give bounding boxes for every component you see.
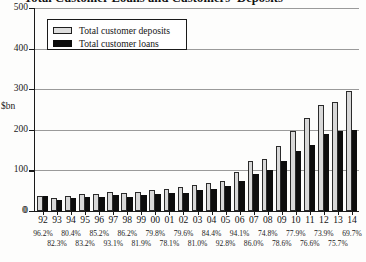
bar-loans: [324, 134, 330, 211]
ratio-label: 80.4%: [57, 229, 85, 238]
bar-loans: [57, 200, 63, 211]
bar-group: [205, 8, 219, 211]
bar-group: [190, 8, 204, 211]
ratio-label: 83.2%: [71, 239, 99, 248]
ratio-label: 79.6%: [169, 229, 197, 238]
ratio-label: 81.9%: [127, 239, 155, 248]
bar-group: [219, 8, 233, 211]
legend-swatch-loans-icon: [53, 40, 72, 47]
bar-loans: [113, 195, 119, 211]
y-axis-tick: [29, 170, 35, 171]
ratio-label: 75.7%: [324, 239, 352, 248]
ratio-label: 86.0%: [240, 239, 268, 248]
y-axis-tick: [29, 49, 35, 50]
legend-item-loans: Total customer loans: [53, 37, 181, 49]
ratio-label: 86.2%: [113, 229, 141, 238]
chart-legend: Total customer deposits Total customer l…: [47, 19, 187, 50]
ratio-label: 78.6%: [268, 239, 296, 248]
legend-swatch-deposits-icon: [53, 27, 72, 34]
ratio-label: 69.7%: [338, 229, 366, 238]
ratio-labels: 96.2%82.3%80.4%83.2%85.2%93.1%86.2%81.9%…: [36, 229, 359, 251]
ratio-label: 85.2%: [85, 229, 113, 238]
bar-group: [289, 8, 303, 211]
bar-loans: [127, 197, 133, 211]
ratio-label: 84.4%: [198, 229, 226, 238]
bar-loans: [352, 130, 358, 211]
bar-loans: [71, 198, 77, 211]
bar-group: [345, 8, 359, 211]
bar-group: [275, 8, 289, 211]
y-axis-tick: [29, 89, 35, 90]
bar-group: [303, 8, 317, 211]
y-axis-tick: [29, 8, 35, 9]
bar-loans: [183, 193, 189, 211]
ratio-label: 73.9%: [310, 229, 338, 238]
bar-loans: [239, 181, 245, 211]
bar-loans: [43, 196, 49, 211]
chart-title: Total Customer Loans and Customers' Depo…: [24, 0, 361, 5]
ratio-label: 93.1%: [99, 239, 127, 248]
x-axis-label: 14: [343, 214, 361, 225]
ratio-label: 78.1%: [155, 239, 183, 248]
bar-group: [261, 8, 275, 211]
bar-loans: [197, 190, 203, 211]
bar-loans: [141, 195, 147, 211]
bar-group: [247, 8, 261, 211]
x-axis-labels: 9293949596979899000102030405060708091011…: [36, 214, 359, 227]
bar-loans: [99, 197, 105, 211]
bar-loans: [267, 170, 273, 211]
legend-item-deposits: Total customer deposits: [53, 24, 181, 36]
y-axis-tick-label: 200: [2, 124, 28, 134]
bar-loans: [338, 131, 344, 211]
y-axis-tick-label: 300: [2, 83, 28, 93]
y-axis-tick-label: 500: [2, 2, 28, 12]
ratio-label: 76.6%: [296, 239, 324, 248]
bar-loans: [211, 189, 217, 211]
bar-loans: [155, 194, 161, 211]
ratio-label: 94.1%: [226, 229, 254, 238]
bar-loans: [169, 193, 175, 211]
legend-label-deposits: Total customer deposits: [79, 25, 170, 36]
y-axis-tick-label: 100: [2, 164, 28, 174]
ratio-label: 79.8%: [141, 229, 169, 238]
ratio-label: 74.8%: [254, 229, 282, 238]
bar-loans: [310, 145, 316, 211]
y-axis-zero-label: 0: [22, 205, 27, 215]
ratio-label: 77.9%: [282, 229, 310, 238]
y-axis-tick-label: 400: [2, 43, 28, 53]
bar-loans: [253, 174, 259, 211]
ratio-label: 82.3%: [43, 239, 71, 248]
bar-loans: [296, 151, 302, 211]
bar-group: [317, 8, 331, 211]
bar-loans: [281, 161, 287, 211]
chart-footnote: [0, 256, 361, 262]
bar-loans: [85, 197, 91, 211]
ratio-label: 96.2%: [29, 229, 57, 238]
legend-label-loans: Total customer loans: [79, 38, 159, 49]
y-axis-title: $bn: [1, 101, 15, 111]
y-axis-tick: [29, 130, 35, 131]
ratio-label: 92.8%: [212, 239, 240, 248]
bar-group: [331, 8, 345, 211]
bar-group: [233, 8, 247, 211]
ratio-label: 81.0%: [184, 239, 212, 248]
bar-loans: [225, 186, 231, 211]
